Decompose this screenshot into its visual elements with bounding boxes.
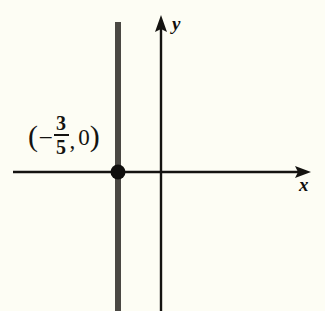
coordinate-plane-figure: y x ( – 3 5 , 0 ) (0, 0, 325, 311)
annotation-fraction-three-fifths: 3 5 (54, 113, 69, 157)
fraction-denominator: 5 (54, 136, 68, 157)
fraction-numerator: 3 (54, 113, 68, 134)
x-axis-label: x (299, 175, 309, 194)
point-coordinate-annotation: ( – 3 5 , 0 ) (28, 114, 100, 158)
annotation-comma: , (70, 129, 79, 152)
y-axis-label: y (172, 14, 180, 33)
annotation-open-paren: ( (28, 123, 38, 149)
annotation-y-value: 0 (78, 126, 90, 149)
annotation-close-paren: ) (90, 123, 100, 149)
annotation-minus-sign: – (38, 124, 53, 147)
x-intercept-point-marker (111, 165, 126, 180)
